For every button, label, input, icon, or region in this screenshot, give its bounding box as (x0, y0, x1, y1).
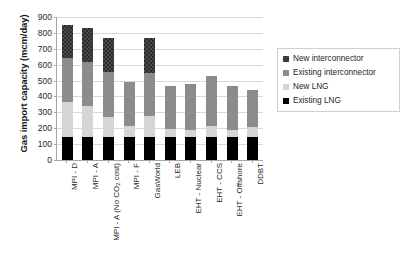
bar-segment (247, 90, 258, 127)
bar-stack (247, 90, 258, 160)
x-axis-label: MPI - D (70, 163, 79, 190)
x-axis-label: DDBT (256, 163, 265, 185)
x-tick-mark (128, 160, 129, 163)
bar-segment (144, 137, 155, 160)
bar-segment (103, 38, 114, 72)
bar-segment (227, 130, 238, 137)
bar-series-layer (57, 17, 263, 160)
y-tick-label: 800 (38, 28, 52, 38)
x-tick-mark (108, 160, 109, 163)
legend-label: Existing interconnector (293, 68, 376, 77)
bar-segment (103, 137, 114, 160)
y-tick-mark (54, 160, 57, 161)
bar-segment (206, 137, 217, 160)
bar-segment (144, 73, 155, 117)
x-axis-label: EHT - CCS (215, 163, 224, 203)
bar-segment (247, 137, 258, 160)
bar-segment (227, 137, 238, 160)
bar-segment (124, 126, 135, 137)
bar-segment (103, 72, 114, 117)
bar-segment (247, 127, 258, 137)
y-tick-label: 500 (38, 76, 52, 86)
chart-container: Gas import capacity (mcm/day) 0100200300… (0, 0, 403, 277)
bar-segment (82, 28, 93, 61)
bar-segment (185, 130, 196, 137)
x-tick-mark (190, 160, 191, 163)
bar-stack (62, 25, 73, 160)
legend-item: New LNG (283, 82, 395, 91)
y-tick-label: 0 (47, 155, 52, 165)
bar-segment (62, 25, 73, 58)
x-tick-mark (252, 160, 253, 163)
bar-segment (144, 116, 155, 137)
y-tick-label: 200 (38, 123, 52, 133)
legend-swatch-icon (283, 98, 289, 104)
plot-area: 0100200300400500600700800900 (56, 17, 263, 161)
x-tick-mark (169, 160, 170, 163)
y-tick-label: 400 (38, 91, 52, 101)
x-tick-mark (87, 160, 88, 163)
bar-segment (82, 62, 93, 106)
bar-stack (185, 84, 196, 160)
x-tick-mark (231, 160, 232, 163)
bar-segment (82, 106, 93, 137)
bar-stack (103, 38, 114, 160)
bar-segment (82, 137, 93, 160)
x-axis-label: MPI - A (91, 163, 100, 189)
legend-item: Existing interconnector (283, 68, 395, 77)
x-axis-label: MPI - F (132, 163, 141, 189)
x-axis-label: LEB (173, 163, 182, 178)
bar-segment (185, 137, 196, 160)
x-axis-label: EHT - Nuclear (194, 163, 203, 214)
bar-stack (206, 76, 217, 160)
y-tick-label: 900 (38, 12, 52, 22)
x-tick-mark (66, 160, 67, 163)
legend-swatch-icon (283, 84, 289, 90)
y-tick-label: 300 (38, 107, 52, 117)
bar-segment (206, 76, 217, 126)
legend-label: New interconnector (293, 54, 364, 63)
bar-segment (144, 38, 155, 72)
bar-segment (185, 84, 196, 130)
y-axis-title: Gas import capacity (mcm/day) (18, 4, 29, 164)
bar-stack (124, 82, 135, 160)
x-tick-mark (149, 160, 150, 163)
legend-item: New interconnector (283, 54, 395, 63)
bar-segment (124, 137, 135, 160)
bar-segment (124, 82, 135, 126)
bar-segment (62, 102, 73, 137)
x-tick-mark (211, 160, 212, 163)
legend-label: Existing LNG (293, 96, 341, 105)
bar-segment (62, 137, 73, 160)
bar-segment (165, 137, 176, 160)
bar-segment (165, 86, 176, 129)
chart-legend: New interconnectorExisting interconnecto… (277, 48, 400, 112)
legend-swatch-icon (283, 70, 289, 76)
bar-stack (144, 38, 155, 160)
bar-segment (103, 117, 114, 137)
bar-segment (165, 129, 176, 137)
legend-label: New LNG (293, 82, 329, 91)
bar-segment (206, 126, 217, 137)
bar-segment (227, 86, 238, 130)
legend-item: Existing LNG (283, 96, 395, 105)
bar-segment (62, 58, 73, 102)
bar-stack (165, 86, 176, 160)
y-tick-label: 600 (38, 60, 52, 70)
x-axis-label: GasWorld (153, 163, 162, 198)
x-axis-labels: MPI - DMPI - AMPI - A (No CO₂ cost)MPI -… (56, 163, 262, 263)
bar-stack (227, 86, 238, 160)
x-axis-label: MPI - A (No CO₂ cost) (112, 163, 121, 241)
legend-swatch-icon (283, 56, 289, 62)
y-tick-label: 100 (38, 139, 52, 149)
bar-stack (82, 28, 93, 160)
x-axis-label: EHT - Offshore (235, 163, 244, 217)
y-tick-label: 700 (38, 44, 52, 54)
